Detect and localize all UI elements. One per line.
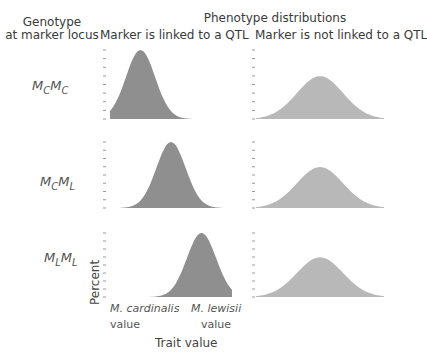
distribution-curve bbox=[256, 257, 384, 297]
x-left-value: value bbox=[110, 318, 140, 331]
distribution-curve bbox=[110, 233, 232, 297]
distribution-curve bbox=[110, 50, 232, 119]
distribution-curve bbox=[256, 167, 384, 208]
distribution-curve bbox=[256, 76, 384, 119]
distribution-curve bbox=[110, 142, 232, 208]
x-left-label: M. cardinalis bbox=[110, 302, 179, 315]
x-right-label: M. lewisii bbox=[191, 302, 241, 315]
y-axis-label: Percent bbox=[88, 260, 102, 305]
x-right-value: value bbox=[201, 318, 231, 331]
x-axis-label: Trait value bbox=[155, 336, 217, 350]
